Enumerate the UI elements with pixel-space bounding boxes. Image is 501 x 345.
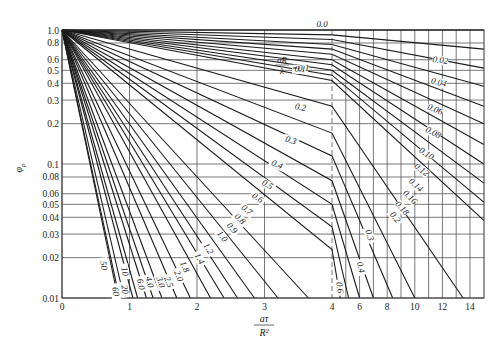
x-tick-label: 14 bbox=[465, 302, 475, 312]
y-tick-label: 0.8 bbox=[47, 38, 59, 48]
curve-label: 0.3 bbox=[282, 133, 300, 147]
parameter-annotation-numerator: αR bbox=[277, 55, 288, 65]
parameter-annotation-value: =0.1 bbox=[292, 63, 309, 73]
x-tick-label: 3 bbox=[262, 302, 267, 312]
y-tick-label: 0.02 bbox=[42, 253, 59, 263]
curve-label: 0.6 bbox=[334, 279, 346, 296]
y-tick-label: 0.03 bbox=[42, 230, 59, 240]
x-tick-label: 2 bbox=[195, 302, 200, 312]
y-tick-label: 0.05 bbox=[42, 200, 59, 210]
y-tick-label: 0.06 bbox=[42, 189, 59, 199]
y-tick-label: 0.01 bbox=[42, 294, 59, 304]
curve-label-text: 0.6 bbox=[334, 281, 346, 294]
x-axis-title: aτ R² bbox=[254, 313, 274, 338]
y-tick-label: 1.0 bbox=[47, 26, 59, 36]
curve-label-text: 0.0 bbox=[316, 19, 328, 29]
y-tick-label: 0.08 bbox=[42, 172, 59, 182]
curve-label: 0.5 bbox=[258, 176, 277, 193]
y-tick-label: 0.2 bbox=[47, 119, 59, 129]
curve-label: 0.4 bbox=[268, 156, 287, 172]
chart-container: 1.00.80.60.50.40.30.20.10.080.060.050.04… bbox=[0, 0, 501, 345]
x-tick-label: 6 bbox=[357, 302, 362, 312]
y-tick-label: 0.1 bbox=[47, 160, 59, 170]
curve-label-text: 0.2 bbox=[294, 101, 307, 113]
x-tick-label: 12 bbox=[438, 302, 448, 312]
curve-label: 0.08 bbox=[424, 124, 443, 141]
y-tick-label: 0.04 bbox=[42, 213, 59, 223]
curve-label: 0.3 bbox=[363, 226, 377, 244]
curve-label: 0.4 bbox=[354, 258, 368, 276]
x-tick-label: 0 bbox=[60, 302, 65, 312]
curve-0-2 bbox=[62, 30, 484, 220]
y-axis-title: φp bbox=[13, 163, 27, 173]
y-tick-label: 0.3 bbox=[47, 96, 59, 106]
curve-label: 0.0 bbox=[314, 19, 330, 29]
x-axis-ticks: 0123468101214 bbox=[60, 302, 475, 312]
parameter-annotation-denominator: λ bbox=[279, 66, 284, 76]
curve-label: 0.2 bbox=[292, 101, 309, 114]
nomogram-chart: 1.00.80.60.50.40.30.20.10.080.060.050.04… bbox=[0, 0, 501, 345]
curve-label: 10 bbox=[119, 263, 132, 280]
curve-label: 50 bbox=[98, 257, 110, 274]
x-tick-label: 1 bbox=[127, 302, 132, 312]
x-tick-label: 4 bbox=[330, 302, 335, 312]
x-axis-title-denominator: R² bbox=[258, 327, 269, 338]
y-tick-label: 0.5 bbox=[47, 66, 59, 76]
y-axis-title-main: φp bbox=[13, 163, 27, 173]
x-tick-label: 8 bbox=[385, 302, 390, 312]
y-axis-ticks: 1.00.80.60.50.40.30.20.10.080.060.050.04… bbox=[42, 26, 59, 304]
curve-label-text: 0.02 bbox=[432, 54, 449, 66]
x-axis-title-numerator: aτ bbox=[260, 313, 269, 324]
curve-label: 0.02 bbox=[432, 54, 450, 66]
x-tick-label: 10 bbox=[410, 302, 420, 312]
curve-label-text: 0.08 bbox=[424, 124, 443, 140]
y-tick-label: 0.4 bbox=[47, 79, 59, 89]
y-tick-label: 0.6 bbox=[47, 55, 59, 65]
